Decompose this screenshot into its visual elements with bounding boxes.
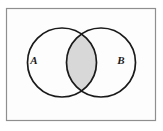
- venn-diagram-canvas: A B: [0, 0, 163, 131]
- set-a-label: A: [29, 54, 37, 66]
- venn-diagram-figure: A B: [0, 0, 163, 131]
- set-b-label: B: [116, 54, 124, 66]
